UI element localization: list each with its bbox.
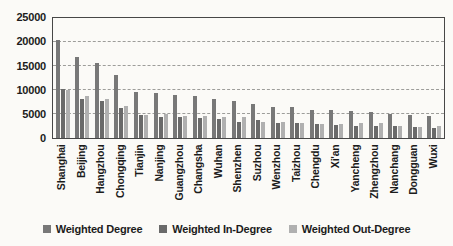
bar-weighted-degree bbox=[75, 57, 79, 138]
legend-swatch-weighted-in-degree bbox=[159, 225, 167, 233]
bar-weighted-degree bbox=[173, 95, 177, 138]
bar-weighted-degree bbox=[408, 115, 412, 138]
bar-weighted-degree bbox=[329, 110, 333, 138]
x-category-label: Guangzhou bbox=[172, 145, 185, 221]
legend: Weighted Degree Weighted In-Degree Weigh… bbox=[0, 220, 453, 238]
bar-weighted-in-degree bbox=[295, 123, 299, 138]
bar-weighted-out-degree bbox=[242, 117, 246, 138]
bar-weighted-in-degree bbox=[256, 120, 260, 138]
bar-weighted-out-degree bbox=[398, 126, 402, 138]
bar-weighted-degree bbox=[310, 110, 314, 138]
bar-weighted-in-degree bbox=[315, 124, 319, 138]
bar-weighted-out-degree bbox=[418, 127, 422, 138]
x-category-label: Beijing bbox=[74, 145, 87, 221]
legend-label: Weighted Degree bbox=[56, 223, 143, 235]
bar-weighted-in-degree bbox=[237, 122, 241, 138]
bar-weighted-out-degree bbox=[339, 124, 343, 138]
bar-chart-figure: 25000 20000 15000 10000 5000 0 Weighted … bbox=[0, 0, 453, 246]
x-category-label: Wenzhou bbox=[270, 145, 283, 221]
bar-weighted-in-degree bbox=[374, 126, 378, 138]
y-tick-label: 10000 bbox=[0, 83, 46, 97]
bar-weighted-in-degree bbox=[334, 125, 338, 138]
bar-weighted-degree bbox=[193, 96, 197, 138]
bar-weighted-out-degree bbox=[222, 117, 226, 138]
legend-item-weighted-degree: Weighted Degree bbox=[43, 223, 143, 235]
x-category-label: Wuxi bbox=[426, 145, 439, 221]
x-category-label: Dongguan bbox=[407, 145, 420, 221]
bar-weighted-degree bbox=[290, 107, 294, 138]
gridline bbox=[53, 113, 444, 114]
bar-weighted-in-degree bbox=[80, 99, 84, 138]
bar-weighted-degree bbox=[232, 101, 236, 138]
x-category-label: Zhengzhou bbox=[368, 145, 381, 221]
bar-weighted-out-degree bbox=[320, 124, 324, 138]
legend-item-weighted-in-degree: Weighted In-Degree bbox=[159, 223, 272, 235]
bar-weighted-out-degree bbox=[105, 99, 109, 138]
bar-weighted-out-degree bbox=[437, 126, 441, 138]
bar-weighted-out-degree bbox=[203, 116, 207, 138]
bar-weighted-degree bbox=[251, 104, 255, 138]
y-tick-label: 5000 bbox=[0, 107, 46, 121]
legend-item-weighted-out-degree: Weighted Out-Degree bbox=[289, 223, 410, 235]
x-category-label: Wuhan bbox=[211, 145, 224, 221]
x-category-label: Changsha bbox=[192, 145, 205, 221]
bar-weighted-degree bbox=[427, 116, 431, 138]
bar-weighted-degree bbox=[95, 63, 99, 138]
bar-weighted-degree bbox=[388, 114, 392, 138]
bar-weighted-out-degree bbox=[85, 96, 89, 138]
legend-label: Weighted In-Degree bbox=[172, 223, 272, 235]
bar-weighted-out-degree bbox=[144, 115, 148, 138]
x-category-label: Hangzhou bbox=[94, 145, 107, 221]
y-tick-label: 0 bbox=[0, 131, 46, 145]
legend-swatch-weighted-out-degree bbox=[289, 225, 297, 233]
x-category-label: Chengdu bbox=[309, 145, 322, 221]
bar-weighted-degree bbox=[349, 111, 353, 138]
bar-weighted-in-degree bbox=[393, 126, 397, 138]
bar-weighted-in-degree bbox=[61, 89, 65, 138]
bar-weighted-in-degree bbox=[178, 117, 182, 138]
bar-weighted-out-degree bbox=[183, 116, 187, 138]
x-category-label: Shenzhen bbox=[231, 145, 244, 221]
plot-area bbox=[52, 17, 445, 139]
x-category-label: Chongqing bbox=[113, 145, 126, 221]
bar-weighted-degree bbox=[271, 107, 275, 138]
x-category-label: Nanjing bbox=[153, 145, 166, 221]
bar-weighted-in-degree bbox=[413, 127, 417, 138]
bar-weighted-in-degree bbox=[139, 115, 143, 138]
gridline bbox=[53, 89, 444, 90]
y-tick-label: 25000 bbox=[0, 10, 46, 24]
bar-weighted-degree bbox=[369, 112, 373, 138]
bar-weighted-in-degree bbox=[159, 117, 163, 138]
bar-weighted-out-degree bbox=[281, 122, 285, 138]
x-category-label: Nanchang bbox=[387, 145, 400, 221]
bar-weighted-out-degree bbox=[261, 122, 265, 138]
legend-label: Weighted Out-Degree bbox=[302, 223, 410, 235]
x-category-label: Shanghai bbox=[55, 145, 68, 221]
bar-weighted-out-degree bbox=[359, 123, 363, 138]
bar-weighted-in-degree bbox=[276, 123, 280, 138]
bar-weighted-in-degree bbox=[100, 101, 104, 138]
legend-swatch-weighted-degree bbox=[43, 225, 51, 233]
bar-weighted-in-degree bbox=[217, 119, 221, 138]
bar-weighted-in-degree bbox=[354, 126, 358, 138]
x-category-label: Taizhou bbox=[289, 145, 302, 221]
y-tick-label: 15000 bbox=[0, 59, 46, 73]
bar-weighted-in-degree bbox=[119, 108, 123, 138]
bar-weighted-out-degree bbox=[164, 114, 168, 138]
bar-weighted-in-degree bbox=[198, 118, 202, 138]
bar-weighted-degree bbox=[114, 75, 118, 138]
x-category-label: Tianjin bbox=[133, 145, 146, 221]
bar-weighted-degree bbox=[212, 99, 216, 138]
bar-weighted-degree bbox=[56, 40, 60, 138]
x-category-label: Yancheng bbox=[348, 145, 361, 221]
bar-weighted-in-degree bbox=[432, 128, 436, 138]
bar-weighted-out-degree bbox=[66, 90, 70, 138]
x-category-label: Suzhou bbox=[250, 145, 263, 221]
bar-weighted-out-degree bbox=[379, 123, 383, 138]
x-category-label: Xi'an bbox=[328, 145, 341, 221]
gridline bbox=[53, 65, 444, 66]
bar-weighted-out-degree bbox=[300, 123, 304, 138]
bar-weighted-degree bbox=[154, 93, 158, 138]
bar-weighted-out-degree bbox=[124, 106, 128, 138]
gridline bbox=[53, 41, 444, 42]
